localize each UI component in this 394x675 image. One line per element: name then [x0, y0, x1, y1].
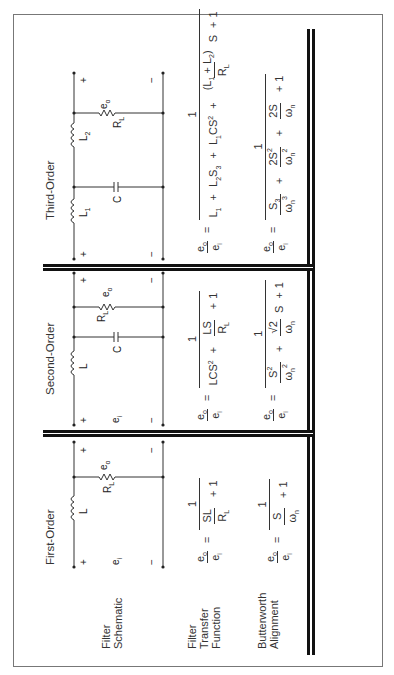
denominator: S2ωn2 + √2ωn S +1 [265, 280, 294, 388]
n: LS [201, 319, 214, 336]
plus: + [273, 346, 285, 352]
sub: L [118, 117, 125, 121]
sup: 2 [207, 116, 214, 120]
sub: n [293, 510, 300, 514]
sub: 1 [84, 208, 91, 212]
denominator: SLRL +1 [199, 478, 228, 529]
sub: 2 [84, 132, 91, 136]
sup: 2 [281, 149, 288, 153]
s3-over-wn3: S3ωn3 [267, 194, 294, 214]
e: e [279, 555, 291, 561]
sub: i [216, 411, 223, 413]
s: S [273, 306, 285, 313]
equals: = [201, 395, 213, 401]
plus: + [273, 292, 285, 298]
resistor-icon [99, 110, 115, 116]
r: R [216, 514, 228, 522]
sub: L [223, 510, 230, 514]
e: e [209, 245, 221, 251]
eo-over-ei: eoei [260, 240, 287, 254]
one: 1 [207, 11, 219, 17]
e: e [275, 413, 287, 419]
r: R [216, 326, 228, 334]
n: 2S [267, 102, 280, 119]
third-minus-out: − [146, 77, 157, 83]
eo-over-ei: eoei [194, 240, 221, 254]
equals: = [271, 537, 283, 543]
l: L [207, 139, 219, 145]
e: e [194, 246, 206, 252]
third-eo-label: eo [98, 100, 109, 109]
p: ) [201, 50, 213, 54]
sup: 2 [266, 367, 273, 371]
main-fraction: 1 SLRL +1 [186, 478, 228, 529]
sub: n [289, 368, 296, 372]
eo-over-ei: eoei [194, 550, 221, 564]
l: L [201, 58, 213, 64]
sub: i [216, 243, 223, 245]
second-transfer-function: eoei = 1 LCS2 + LSRL +1 [186, 288, 228, 425]
w: ω [286, 514, 298, 523]
one: 1 [273, 76, 285, 82]
third-plus-out: + [78, 77, 89, 83]
w: ω [282, 204, 294, 213]
numerator: 1 [252, 329, 265, 339]
l: L [78, 135, 89, 141]
e: e [194, 556, 206, 562]
e: e [275, 245, 287, 251]
plus: + [207, 194, 219, 200]
w: ω [282, 109, 294, 118]
one: 1 [207, 480, 219, 486]
third-inductor1-label: L1 [78, 208, 89, 217]
sub: 1 [215, 208, 222, 212]
sup: 2 [207, 360, 214, 364]
e: e [260, 414, 272, 420]
s2-over-wn2: S2ωn2 [267, 362, 294, 382]
first-transfer-function: eoei = 1 SLRL +1 [186, 475, 228, 567]
denominator: Sωn +1 [269, 479, 298, 529]
s-over-wn: Sωn [271, 508, 298, 525]
one: 1 [277, 481, 289, 487]
third-butterworth: eoei = 1 S3ωn3 + 2S2ωn2 + 2Sωn +1 [252, 71, 294, 257]
sub: o [104, 100, 111, 104]
n: √2 [267, 319, 280, 335]
one: 1 [273, 282, 285, 288]
r: R [216, 68, 228, 76]
numerator: 1 [186, 109, 199, 119]
plus: + [207, 491, 219, 497]
sub: L [223, 322, 230, 326]
n: SL [201, 507, 214, 524]
plus: + [207, 303, 219, 309]
ls-over-rl: LSRL [201, 319, 228, 336]
sub: i [216, 553, 223, 555]
eo-over-ei: eoei [194, 408, 221, 422]
sub: 2 [215, 177, 222, 181]
s: S [207, 35, 219, 42]
r: R [112, 121, 123, 128]
s: 2S [267, 152, 279, 165]
eo-over-ei: eoei [260, 408, 287, 422]
third-plus-in: + [78, 251, 89, 257]
third-transfer-function: eoei = 1 L1 + L2S3 + L1CS2 + (L1 + L2)RL… [186, 6, 228, 257]
inductor-icon [71, 123, 74, 147]
numerator: 1 [186, 499, 199, 509]
l: L [78, 211, 89, 217]
third-capacitor-label: C [112, 196, 123, 203]
first-butterworth: eoei = 1 Sωn +1 [256, 476, 298, 567]
main-fraction: 1 Sωn +1 [256, 479, 298, 529]
denominator: L1 + L2S3 + L1CS2 + (L1 + L2)RL S +1 [199, 9, 228, 219]
numerator: 1 [186, 334, 199, 344]
one: 1 [207, 293, 219, 299]
sqrt2-over-wn: √2ωn [267, 319, 294, 336]
sub: i [282, 243, 289, 245]
w: ω [282, 156, 294, 165]
e: e [209, 413, 221, 419]
sup: 3 [281, 196, 288, 200]
sup: 2 [266, 148, 273, 152]
cs: CS [207, 120, 219, 135]
plus: + [201, 67, 213, 73]
s: S [267, 203, 279, 210]
plus: + [207, 347, 219, 353]
third-minus-in: − [146, 251, 157, 257]
second-butterworth: eoei = 1 S2ωn2 + √2ωn S +1 [252, 277, 294, 425]
